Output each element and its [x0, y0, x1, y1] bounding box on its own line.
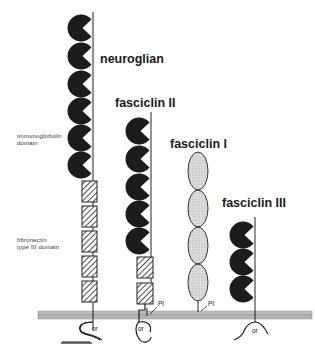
pi-anchor-label: PI [208, 300, 214, 307]
fasciclin-iii-label: fasciclin III [222, 196, 286, 210]
fasciclin-iii-protein: or [230, 217, 268, 340]
cytoplasmic-label: or [92, 325, 99, 332]
cell-membrane [38, 311, 312, 319]
fn-domain-annotation-line2: type III domain [17, 244, 59, 250]
fasciclin-domain-icon [188, 152, 208, 301]
fasciclin-ii-protein: PI or [126, 112, 165, 342]
fasciclin-i-protein: PI [188, 152, 214, 312]
fasciclin-ii-label: fasciclin II [115, 96, 175, 110]
ig-domain-annotation-line2: domain [17, 140, 38, 146]
cytoplasmic-label: or [252, 327, 259, 334]
protein-domain-diagram: or PI or PI [0, 0, 315, 349]
neuroglian-label: neuroglian [100, 52, 164, 66]
ig-domain-icon [230, 222, 254, 303]
ig-domain-icon [126, 118, 150, 255]
cytoplasmic-label: or [138, 325, 145, 332]
fn-domain-annotation-line1: fibronectin [17, 237, 47, 243]
fibronectin-domain-icon [82, 181, 97, 302]
neuroglian-protein: or [61, 12, 102, 343]
ig-domain-icon [68, 15, 92, 179]
ig-domain-annotation-line1: immunoglobulin [17, 133, 62, 139]
fasciclin-i-label: fasciclin I [170, 137, 227, 151]
pi-anchor-label: PI [158, 300, 164, 307]
